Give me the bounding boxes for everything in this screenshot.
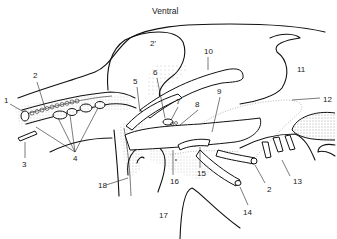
tube-end-14	[235, 181, 241, 186]
structure-1	[21, 111, 29, 121]
label-5: 5	[133, 77, 138, 86]
structure-8-leader	[180, 110, 198, 125]
duct-3	[18, 131, 37, 141]
label-9: 9	[217, 87, 222, 96]
label-2: 2	[33, 71, 38, 80]
structure-2b-leader	[255, 165, 265, 183]
label-1: 1	[4, 96, 9, 105]
label-2-prime: 2'	[150, 39, 156, 48]
label-14: 14	[243, 208, 252, 217]
label-2-lower: 2	[267, 185, 272, 194]
label-8: 8	[195, 100, 200, 109]
structure-18-left	[114, 130, 119, 196]
label-16: 16	[170, 177, 179, 186]
shading-left	[15, 95, 130, 128]
label-12: 12	[323, 95, 332, 104]
label-17: 17	[159, 211, 168, 220]
diagram-title: Ventral	[152, 6, 179, 16]
label-18: 18	[98, 181, 107, 190]
label-6: 6	[153, 68, 158, 77]
structure-4-leader-c	[75, 108, 98, 152]
structure-4-leader-d	[36, 127, 75, 152]
structure-13-leader	[282, 160, 290, 176]
anatomical-diagram: Ventral	[0, 0, 337, 239]
structure-12-leader	[292, 98, 320, 100]
label-7: 7	[176, 97, 181, 106]
knot-cluster-7-8	[163, 119, 178, 126]
tube-end-2	[251, 158, 257, 164]
label-15: 15	[197, 169, 206, 178]
lower-spike	[180, 188, 240, 239]
branch-2	[216, 150, 255, 164]
label-3: 3	[22, 160, 27, 169]
region-11-contour	[240, 34, 300, 104]
marker-dot	[175, 159, 177, 161]
label-10: 10	[204, 47, 213, 56]
branches-13	[262, 135, 295, 158]
label-13: 13	[293, 177, 302, 186]
structure-14-leader	[240, 187, 248, 205]
structure-18-leader	[106, 178, 128, 185]
label-11: 11	[297, 65, 306, 74]
label-4: 4	[73, 154, 78, 163]
structure-5-leader	[137, 87, 140, 112]
right-crescent-small	[318, 144, 335, 156]
